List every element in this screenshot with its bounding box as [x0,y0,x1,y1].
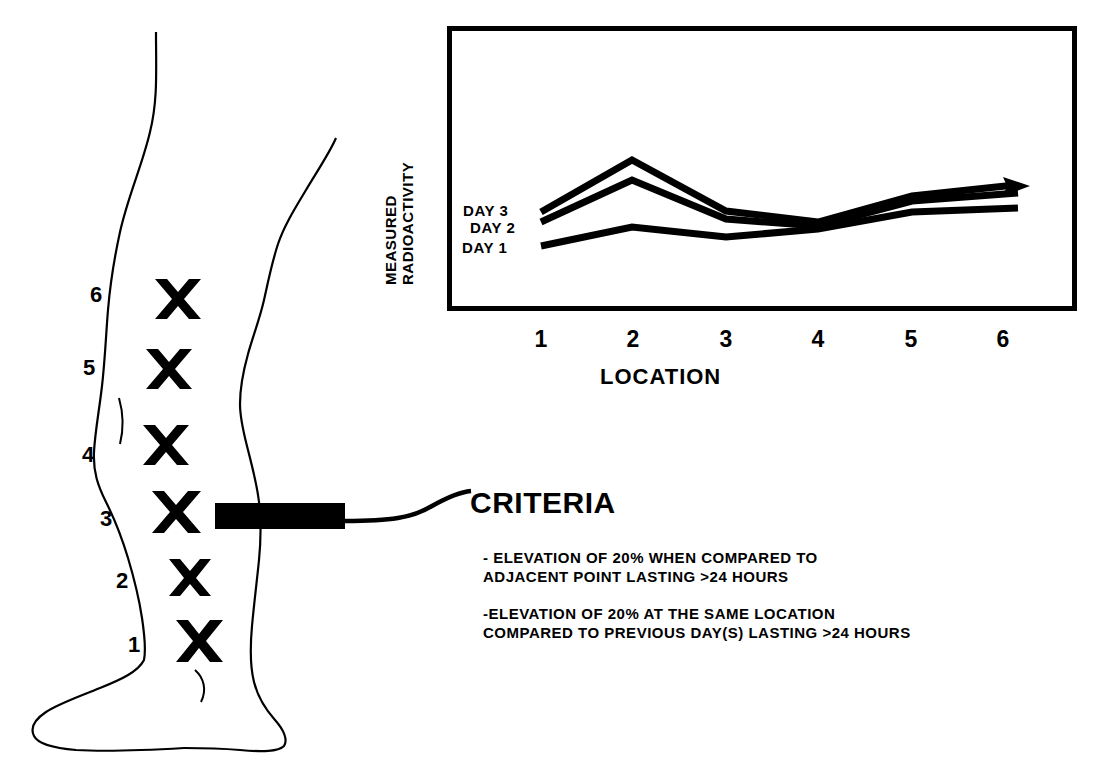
criteria-item-1-line-2: ADJACENT POINT LASTING >24 HOURS [483,567,818,586]
criteria-item-1-line-1: - ELEVATION OF 20% WHEN COMPARED TO [483,548,818,567]
series-label-day-2: DAY 2 [470,220,516,236]
x-axis-tick-1: 1 [526,327,556,352]
x-axis-tick-3: 3 [711,327,741,352]
criteria-item-2-line-2: COMPARED TO PREVIOUS DAY(S) LASTING >24 … [483,623,911,642]
x-axis-tick-5: 5 [896,327,926,352]
x-axis-tick-2: 2 [618,327,648,352]
criteria-item-2: -ELEVATION OF 20% AT THE SAME LOCATION C… [483,604,911,642]
criteria-item-1: - ELEVATION OF 20% WHEN COMPARED TO ADJA… [483,548,818,586]
criteria-heading: CRITERIA [470,486,616,520]
x-axis-title: LOCATION [600,365,920,389]
criteria-item-2-line-1: -ELEVATION OF 20% AT THE SAME LOCATION [483,604,911,623]
series-line-day-1 [541,208,1018,246]
series-label-day-1: DAY 1 [462,240,508,256]
x-axis-tick-4: 4 [803,327,833,352]
x-axis-tick-6: 6 [988,327,1018,352]
series-label-day-3: DAY 3 [463,203,509,219]
figure-root: 6 5 4 3 2 1 MEASURED RADIOACTIVITY DAY 3… [0,0,1099,773]
chart-series-svg [0,0,1099,773]
